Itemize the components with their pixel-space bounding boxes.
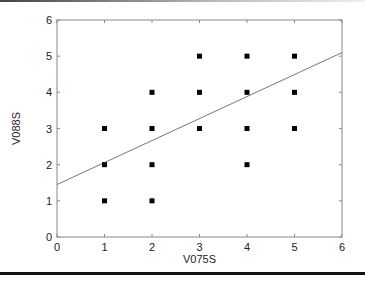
x-tick-label: 4 <box>244 241 250 253</box>
data-point <box>245 90 250 95</box>
data-point <box>150 162 155 167</box>
scatter-chart: 0123456 0123456 V075S V088S <box>0 0 365 283</box>
data-point <box>292 126 297 131</box>
x-tick-labels: 0123456 <box>54 241 345 253</box>
x-axis-label: V075S <box>183 253 216 265</box>
y-tick-label: 3 <box>46 123 52 135</box>
data-point <box>102 126 107 131</box>
data-point <box>197 126 202 131</box>
data-point <box>150 198 155 203</box>
y-tick-label: 4 <box>46 86 52 98</box>
y-tick-label: 0 <box>46 231 52 243</box>
data-point <box>150 126 155 131</box>
y-tick-label: 2 <box>46 159 52 171</box>
y-tick-label: 6 <box>46 14 52 26</box>
x-tick-label: 3 <box>196 241 202 253</box>
data-point <box>292 54 297 59</box>
data-point <box>150 90 155 95</box>
x-tick-label: 6 <box>339 241 345 253</box>
y-tick-label: 5 <box>46 50 52 62</box>
x-tick-label: 1 <box>101 241 107 253</box>
data-point <box>245 162 250 167</box>
data-point <box>102 162 107 167</box>
data-point <box>197 90 202 95</box>
y-tick-labels: 0123456 <box>46 14 52 243</box>
data-point <box>245 54 250 59</box>
data-point <box>292 90 297 95</box>
data-point <box>245 126 250 131</box>
x-tick-label: 5 <box>291 241 297 253</box>
bottom-rule <box>0 272 365 275</box>
data-point <box>197 54 202 59</box>
y-tick-label: 1 <box>46 195 52 207</box>
x-tick-label: 2 <box>149 241 155 253</box>
data-point <box>102 198 107 203</box>
x-tick-label: 0 <box>54 241 60 253</box>
y-axis-label: V088S <box>10 112 22 145</box>
